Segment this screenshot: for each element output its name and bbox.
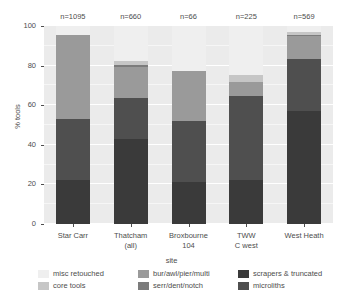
x-tick-label-line: Star Carr (41, 231, 105, 241)
bar-thatcham-all[interactable] (114, 26, 148, 224)
legend-label: microliths (253, 280, 285, 291)
y-tick-label: 100 (0, 21, 36, 30)
bar-segment-bur-awl-pier-multi[interactable] (114, 67, 148, 99)
y-tick-label: 60 (0, 100, 36, 109)
bar-segment-scrapers-truncated[interactable] (114, 98, 148, 139)
x-tick-label: TWWC west (214, 231, 278, 250)
sample-size-label: n=660 (101, 12, 161, 21)
legend-swatch (38, 270, 49, 278)
y-tick-label: 80 (0, 61, 36, 70)
x-tick-mark (73, 224, 74, 227)
bar-segment-misc-retouched[interactable] (56, 26, 90, 35)
x-tick-mark (131, 224, 132, 227)
y-axis-title: % tools (13, 87, 22, 147)
y-tick-label: 20 (0, 179, 36, 188)
bar-segment-bur-awl-pier-multi[interactable] (229, 82, 263, 96)
legend-label: bur/awl/pier/multi (153, 268, 210, 279)
legend-label: core tools (53, 280, 86, 291)
bar-segment-bur-awl-pier-multi[interactable] (56, 35, 90, 119)
bar-segment-scrapers-truncated[interactable] (172, 121, 206, 182)
bar-segment-microliths[interactable] (229, 180, 263, 224)
chart-title (14, 0, 334, 4)
x-tick-label-line: C west (214, 241, 278, 251)
x-tick-label-line: TWW (214, 231, 278, 241)
legend-swatch (38, 282, 49, 290)
bar-segment-misc-retouched[interactable] (114, 26, 148, 61)
x-tick-label-line: West Heath (272, 231, 336, 241)
x-tick-label-line: 104 (157, 241, 221, 251)
legend-label: scrapers & truncated (253, 268, 322, 279)
plot-area (44, 26, 333, 224)
bar-segment-bur-awl-pier-multi[interactable] (172, 71, 206, 121)
y-tick-mark (41, 224, 44, 225)
y-tick-label: 0 (0, 219, 36, 228)
x-tick-label: Thatcham(all) (99, 231, 163, 250)
bar-segment-core-tools[interactable] (229, 75, 263, 83)
sample-size-label: n=1095 (43, 12, 103, 21)
legend-swatch (238, 282, 249, 290)
bar-segment-microliths[interactable] (114, 139, 148, 224)
y-tick-label: 40 (0, 140, 36, 149)
bar-west-heath[interactable] (287, 26, 321, 224)
sample-size-label: n=569 (274, 12, 334, 21)
bar-segment-core-tools[interactable] (114, 61, 148, 65)
x-tick-mark (304, 224, 305, 227)
legend-label: misc retouched (53, 268, 104, 279)
bar-segment-scrapers-truncated[interactable] (56, 119, 90, 180)
bar-segment-serr-dent-notch[interactable] (114, 65, 148, 67)
x-tick-label-line: Broxbourne (157, 231, 221, 241)
bar-tww-c-west[interactable] (229, 26, 263, 224)
x-tick-mark (246, 224, 247, 227)
sample-size-label: n=66 (159, 12, 219, 21)
x-tick-mark (189, 224, 190, 227)
stacked-bar-chart: % tools 020406080100 n=1095n=660n=66n=22… (0, 0, 343, 301)
bar-segment-microliths[interactable] (287, 111, 321, 224)
sample-size-label: n=225 (216, 12, 276, 21)
x-tick-label-line: Thatcham (99, 231, 163, 241)
bar-segment-microliths[interactable] (172, 182, 206, 224)
bar-star-carr[interactable] (56, 26, 90, 224)
x-tick-label: Broxbourne104 (157, 231, 221, 250)
bar-segment-misc-retouched[interactable] (172, 26, 206, 71)
bar-segment-scrapers-truncated[interactable] (229, 96, 263, 180)
legend-label: serr/dent/notch (153, 280, 203, 291)
x-tick-label-line: (all) (99, 241, 163, 251)
bar-broxbourne-104[interactable] (172, 26, 206, 224)
legend-swatch (238, 270, 249, 278)
x-axis-title: site (0, 256, 343, 265)
bar-segment-scrapers-truncated[interactable] (287, 59, 321, 111)
chart-legend: misc retouchedcore toolsbur/awl/pier/mul… (0, 268, 343, 294)
bar-segment-misc-retouched[interactable] (287, 26, 321, 32)
x-tick-label: West Heath (272, 231, 336, 241)
bar-segment-misc-retouched[interactable] (229, 26, 263, 75)
legend-swatch (138, 270, 149, 278)
bar-segment-serr-dent-notch[interactable] (287, 35, 321, 36)
bar-segment-core-tools[interactable] (287, 32, 321, 35)
x-tick-label: Star Carr (41, 231, 105, 241)
bar-segment-microliths[interactable] (56, 180, 90, 224)
legend-swatch (138, 282, 149, 290)
bar-segment-bur-awl-pier-multi[interactable] (287, 36, 321, 59)
